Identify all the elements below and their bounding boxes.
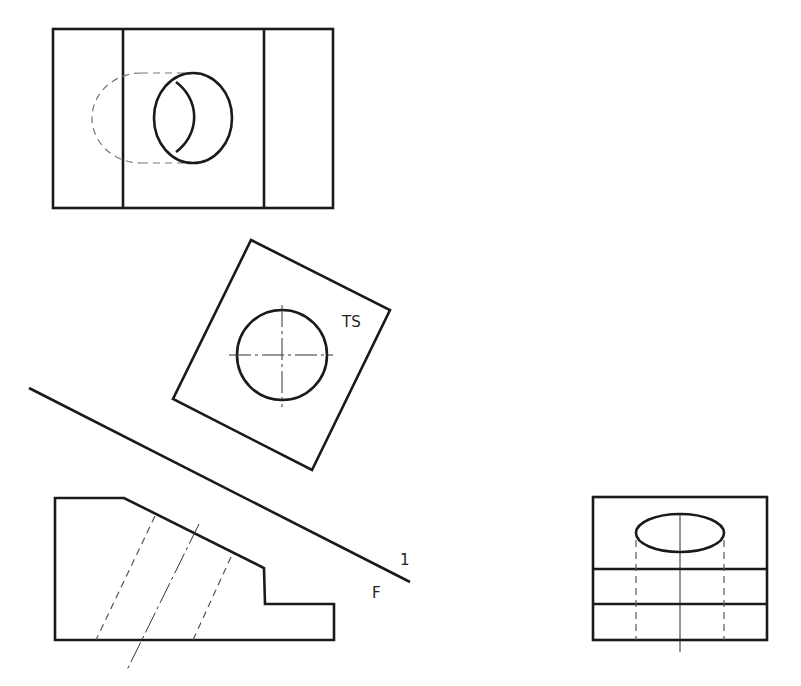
front-view-center-line (126, 524, 199, 672)
true-size-label: TS (341, 313, 361, 331)
fold-line-group: 1 F (29, 388, 410, 602)
front-view-outline (55, 498, 334, 640)
fold-line-label-f: F (372, 584, 381, 602)
fold-line (29, 388, 410, 582)
side-view (593, 497, 767, 652)
front-view (55, 498, 334, 672)
auxiliary-view: TS (173, 240, 390, 470)
top-view-hidden-arc (92, 73, 141, 163)
front-view-hidden-line-left (96, 516, 155, 640)
top-view-visible-arc (176, 82, 194, 152)
top-view (53, 29, 333, 208)
front-view-hidden-line-right (193, 557, 231, 640)
drawing-canvas: TS 1 F (0, 0, 801, 686)
fold-line-label-1: 1 (400, 551, 410, 569)
